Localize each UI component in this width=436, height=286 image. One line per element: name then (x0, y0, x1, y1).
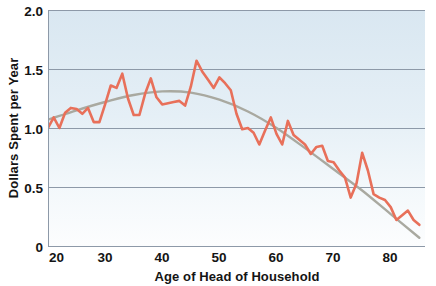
x-tick-label-30: 30 (97, 250, 112, 265)
y-tick-label-1.0: 1.0 (24, 122, 43, 137)
x-tick-label-20: 20 (49, 250, 64, 265)
x-tick-label-50: 50 (211, 250, 226, 265)
x-tick-labels: 20 30 40 50 60 70 80 (49, 250, 398, 265)
x-axis-title: Age of Head of Household (155, 269, 320, 284)
x-tick-label-60: 60 (268, 250, 283, 265)
chart-container: 2.0 1.5 1.0 0.5 0 20 30 40 50 60 70 80 A… (0, 0, 436, 286)
y-axis-title: Dollars Spent per Year (6, 58, 21, 199)
y-tick-label-0: 0 (35, 240, 43, 255)
y-tick-labels: 2.0 1.5 1.0 0.5 0 (24, 4, 43, 255)
y-tick-label-1.5: 1.5 (24, 63, 43, 78)
y-tick-label-0.5: 0.5 (24, 181, 43, 196)
x-tick-label-80: 80 (382, 250, 397, 265)
line-chart: 2.0 1.5 1.0 0.5 0 20 30 40 50 60 70 80 A… (0, 0, 436, 286)
x-tick-label-40: 40 (154, 250, 169, 265)
x-tick-label-70: 70 (325, 250, 340, 265)
y-tick-label-2.0: 2.0 (24, 4, 43, 19)
